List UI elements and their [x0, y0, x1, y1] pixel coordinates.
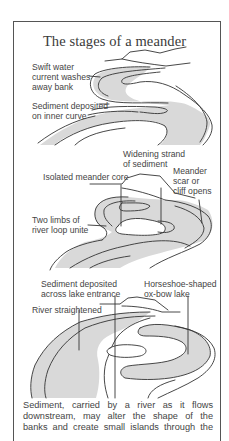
label-oxbow-lake: Horseshoe-shaped ox-bow lake [144, 279, 217, 299]
caption-line: downstream, may alter the shape of the [23, 411, 213, 422]
caption: Sediment, carried by a river as it flows… [23, 400, 213, 434]
label-sediment-inner-curve: Sediment deposited on inner curve [32, 101, 108, 121]
caption-line: banks and create small islands through t… [23, 422, 213, 433]
label-two-limbs: Two limbs of river loop unite [32, 215, 88, 235]
label-swift-water: Swift water current washes away bank [32, 62, 90, 92]
label-sediment-lake-entrance: Sediment deposited across lake entrance [41, 279, 120, 299]
label-river-straightened: River straightened [32, 305, 102, 315]
label-meander-scar: Meander scar or cliff opens [173, 166, 212, 196]
caption-line: Sediment, carried by a river as it flows [23, 400, 213, 411]
label-isolated-meander-core: Isolated meander core [43, 172, 129, 182]
